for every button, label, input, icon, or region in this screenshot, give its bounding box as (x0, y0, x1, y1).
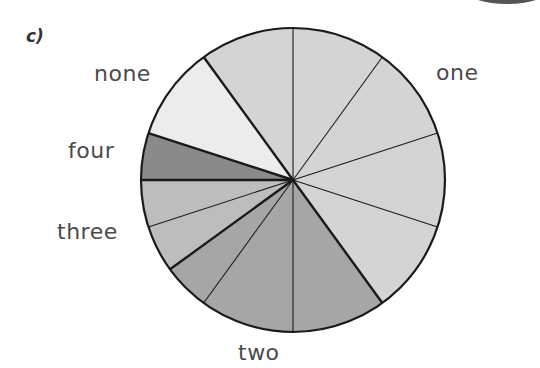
label-two: two (238, 342, 280, 364)
label-none: none (94, 63, 151, 85)
label-one: one (436, 62, 478, 84)
label-four: four (68, 140, 114, 162)
label-three: three (57, 221, 118, 243)
